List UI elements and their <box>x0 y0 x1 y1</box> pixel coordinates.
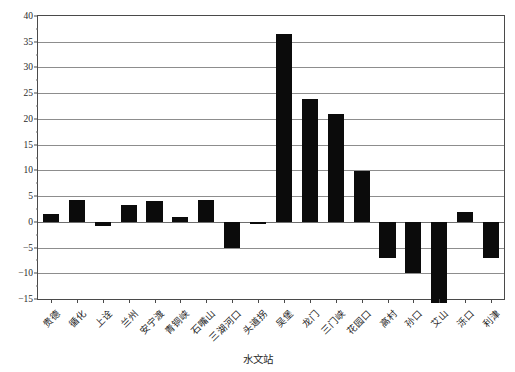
y-tick-label: 0 <box>28 217 33 227</box>
y-tick-label: −10 <box>18 268 33 278</box>
bar <box>224 222 240 248</box>
y-minor-tick <box>36 208 39 209</box>
plot-area: −15−10−50510152025303540 <box>37 15 505 300</box>
y-tick-mark <box>34 170 38 171</box>
bar <box>431 222 447 303</box>
bar <box>250 222 266 225</box>
x-tick-mark <box>439 299 440 303</box>
x-tick-label-text: 贵德 <box>39 306 63 330</box>
bar <box>457 212 473 222</box>
gridline <box>38 67 504 68</box>
gridline <box>38 119 504 120</box>
bar <box>69 200 85 222</box>
y-minor-tick <box>36 54 39 55</box>
bar <box>379 222 395 258</box>
y-minor-tick <box>36 183 39 184</box>
gridline <box>38 93 504 94</box>
y-tick-mark <box>34 221 38 222</box>
y-tick-label: 35 <box>24 37 34 47</box>
x-axis-title: 水文站 <box>0 351 515 366</box>
y-tick-label: 15 <box>24 140 34 150</box>
y-tick-mark <box>34 196 38 197</box>
y-tick-label: 40 <box>24 11 34 21</box>
gridline <box>38 170 504 171</box>
y-tick-mark <box>34 247 38 248</box>
y-tick-mark <box>34 118 38 119</box>
y-tick-mark <box>34 144 38 145</box>
bar <box>354 171 370 221</box>
gridline <box>38 145 504 146</box>
bar <box>198 200 214 222</box>
y-minor-tick <box>36 234 39 235</box>
x-tick-mark <box>465 299 466 303</box>
y-tick-label: 25 <box>24 88 34 98</box>
y-minor-tick <box>36 106 39 107</box>
bar <box>302 99 318 221</box>
chart-figure: 输沙量比例/% −15−10−50510152025303540 水文站 贵德循… <box>0 0 515 372</box>
y-minor-tick <box>36 28 39 29</box>
y-tick-label: 30 <box>24 62 34 72</box>
y-tick-mark <box>34 41 38 42</box>
bar <box>483 222 499 258</box>
y-tick-mark <box>34 273 38 274</box>
y-tick-mark <box>34 67 38 68</box>
y-tick-label: 10 <box>24 165 34 175</box>
y-tick-mark <box>34 299 38 300</box>
y-tick-label: −5 <box>23 243 33 253</box>
bar <box>405 222 421 273</box>
bar <box>172 217 188 222</box>
gridline <box>38 42 504 43</box>
y-tick-mark <box>34 16 38 17</box>
bar <box>43 214 59 222</box>
bar <box>95 222 111 226</box>
y-tick-label: 20 <box>24 114 34 124</box>
bar <box>121 205 137 221</box>
bar <box>328 114 344 222</box>
y-minor-tick <box>36 260 39 261</box>
bar <box>276 34 292 222</box>
y-minor-tick <box>36 286 39 287</box>
y-tick-label: −15 <box>18 294 33 304</box>
bar <box>146 201 162 222</box>
y-tick-mark <box>34 93 38 94</box>
y-minor-tick <box>36 157 39 158</box>
y-tick-label: 5 <box>28 191 33 201</box>
y-minor-tick <box>36 131 39 132</box>
y-minor-tick <box>36 80 39 81</box>
gridline <box>38 196 504 197</box>
x-tick-mark <box>51 299 52 303</box>
